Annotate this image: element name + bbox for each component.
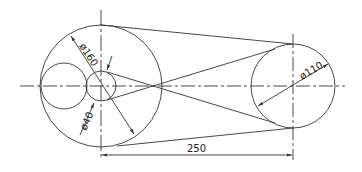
cross-belt-line-1 bbox=[107, 72, 275, 123]
belt-top-line bbox=[101, 25, 293, 44]
dim-40-label: ø40 bbox=[78, 110, 96, 132]
dim-110-label: ø110 bbox=[297, 59, 324, 81]
cross-belt-line-2 bbox=[107, 49, 275, 100]
dim-160-label: ø160 bbox=[77, 41, 100, 68]
dim-40-leader-2 bbox=[107, 56, 112, 70]
belt-drive-drawing: ø160 ø40 ø110 250 bbox=[0, 0, 362, 172]
dim-250-label: 250 bbox=[187, 143, 206, 154]
drawing-canvas: ø160 ø40 ø110 250 bbox=[0, 0, 362, 172]
